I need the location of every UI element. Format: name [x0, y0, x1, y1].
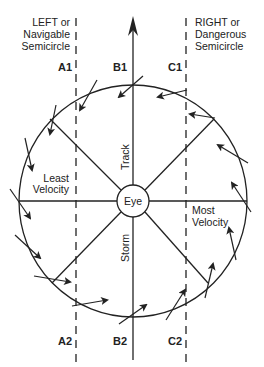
- left-title-line1: LEFT or: [32, 16, 70, 28]
- spoke-ur: [145, 119, 214, 190]
- most-label-2: Velocity: [192, 216, 229, 228]
- marker-b1: B1: [113, 61, 127, 73]
- most-label-1: Most: [192, 204, 215, 216]
- marker-c2: C2: [168, 335, 182, 347]
- left-title-line3: Semicircle: [22, 40, 71, 52]
- eye-label: Eye: [124, 195, 142, 207]
- least-label-2: Velocity: [33, 183, 70, 195]
- right-title-line2: Dangerous: [195, 28, 246, 40]
- marker-c1: C1: [168, 61, 182, 73]
- hurricane-semicircle-diagram: Eye Track Storm LEFT or Navigable Semici…: [0, 0, 264, 367]
- spoke-ll: [52, 212, 121, 283]
- left-title-line2: Navigable: [23, 28, 70, 40]
- storm-label: Storm: [119, 234, 131, 262]
- right-title-line3: Semicircle: [195, 40, 244, 52]
- marker-b2: B2: [113, 335, 127, 347]
- marker-a2: A2: [58, 335, 72, 347]
- track-label: Track: [119, 143, 131, 170]
- right-title-line1: RIGHT or: [195, 16, 240, 28]
- marker-a1: A1: [58, 61, 72, 73]
